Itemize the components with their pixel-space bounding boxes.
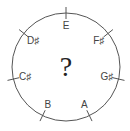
note-label: D♯ — [27, 35, 39, 46]
note-label: F♯ — [93, 35, 104, 46]
center-question-mark: ? — [60, 51, 72, 82]
note-label: C♯ — [19, 71, 31, 82]
note-label: A — [81, 99, 88, 110]
tick-mark — [40, 110, 45, 121]
note-label: G♯ — [101, 71, 114, 82]
tick-mark — [104, 30, 113, 37]
note-circle-diagram: EF♯G♯ABC♯D♯ ? — [0, 0, 130, 131]
note-label: B — [44, 99, 51, 110]
note-label: E — [63, 20, 70, 31]
tick-mark — [87, 110, 92, 121]
